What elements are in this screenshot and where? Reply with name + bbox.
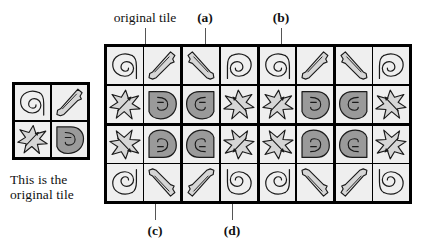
block-r2c2 [183, 126, 256, 202]
pattern-cell-spiral [107, 47, 143, 84]
pattern-cell-bone [297, 47, 333, 84]
pattern-cell-star [260, 86, 296, 123]
block-r1c2 [183, 47, 256, 123]
pattern-cell-star [107, 126, 143, 163]
caption-line-1: This is the [10, 172, 114, 187]
label-c: (c) [148, 224, 163, 238]
pattern-cell-bone [144, 47, 180, 84]
caption-line-2: original tile [10, 187, 114, 202]
label-original-tile: original tile [114, 11, 177, 25]
legend-cell-star [15, 122, 50, 157]
pattern-cell-spiral [260, 164, 296, 201]
pattern-cell-spiral [107, 164, 143, 201]
pattern-cell-spiral [221, 47, 257, 84]
pattern-cell-leaf [297, 86, 333, 123]
leader-line-original-tile [145, 28, 146, 44]
block-r2c1 [107, 126, 180, 202]
leader-line-b [281, 28, 282, 44]
pattern-cell-bone [297, 164, 333, 201]
label-b: (b) [273, 11, 290, 25]
block-r1c3 [260, 47, 333, 123]
pattern-cell-leaf [183, 86, 219, 123]
block-r2c3 [260, 126, 333, 202]
label-d: (d) [224, 224, 241, 238]
pattern-cell-star [373, 86, 409, 123]
pattern-cell-star [107, 86, 143, 123]
block-r1c1 [107, 47, 180, 123]
pattern-cell-leaf [336, 126, 372, 163]
pattern-cell-leaf [183, 126, 219, 163]
original-tile-caption: This is the original tile [10, 172, 114, 202]
block-r1c4 [336, 47, 409, 123]
original-tile-legend [12, 82, 90, 160]
pattern-cell-leaf [336, 86, 372, 123]
original-tile-block [12, 82, 90, 160]
block-r2c4 [336, 126, 409, 202]
pattern-cell-bone [183, 164, 219, 201]
pattern-cell-bone [336, 164, 372, 201]
pattern-cell-bone [336, 47, 372, 84]
pattern-cell-leaf [144, 86, 180, 123]
legend-cell-spiral [15, 85, 50, 120]
pattern-cell-leaf [144, 126, 180, 163]
pattern-cell-leaf [297, 126, 333, 163]
pattern-cell-star [260, 126, 296, 163]
pattern-cell-spiral [373, 164, 409, 201]
pattern-cell-star [373, 126, 409, 163]
leader-line-c [155, 204, 156, 220]
pattern-cell-spiral [260, 47, 296, 84]
pattern-cell-bone [183, 47, 219, 84]
pattern-cell-spiral [373, 47, 409, 84]
legend-cell-bone [52, 85, 87, 120]
pattern-cell-star [221, 126, 257, 163]
pattern-cell-bone [144, 164, 180, 201]
pattern-grid [104, 44, 412, 204]
pattern-cell-spiral [221, 164, 257, 201]
leader-line-d [232, 204, 233, 220]
leader-line-a [205, 28, 206, 44]
label-a: (a) [197, 11, 213, 25]
legend-cell-leaf [52, 122, 87, 157]
pattern-cell-star [221, 86, 257, 123]
